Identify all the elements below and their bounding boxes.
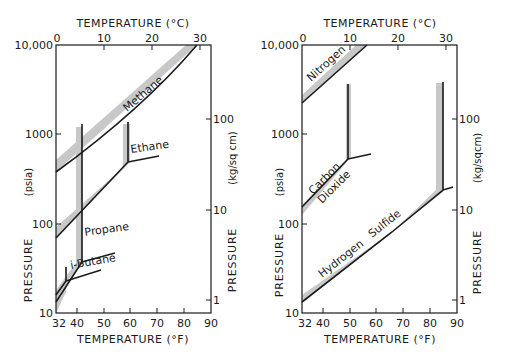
x-tick-32: 32 (298, 317, 312, 330)
left-y-ticks (56, 134, 61, 224)
x-tick-70: 70 (150, 317, 164, 330)
pressure-axis-label: PRESSURE (22, 238, 35, 302)
psia-tick-100: 100 (278, 218, 299, 231)
bottom-axis-title: TEMPERATURE (°F) (323, 333, 436, 346)
right-y2-ticks (452, 119, 457, 300)
psia-axis-label: (psia) (274, 168, 285, 196)
kg-tick-10: 10 (213, 204, 227, 217)
c-tick-10: 10 (97, 32, 111, 45)
c-tick-30: 30 (439, 32, 453, 45)
x-tick-90: 90 (204, 317, 218, 330)
kg-axis-label: (kg/sq cm) (227, 131, 238, 184)
ethane-curve (56, 122, 159, 238)
psia-tick-10000: 10,000 (261, 39, 300, 52)
top-axis-title: TEMPERATURE (°C) (322, 17, 436, 30)
kg-tick-1: 1 (213, 294, 220, 307)
x-tick-70: 70 (396, 317, 410, 330)
pressure-right-axis-label: PRESSURE (226, 228, 239, 292)
psia-axis-label: (psia) (23, 168, 34, 196)
x-tick-40: 40 (316, 317, 330, 330)
hydrate-charts: 32 40 50 60 70 80 90 0 10 20 30 10 100 1… (0, 0, 508, 360)
right-chart: 32 40 50 60 70 80 90 0 10 20 30 10 100 1… (261, 17, 485, 346)
chart-canvas: 32 40 50 60 70 80 90 0 10 20 30 10 100 1… (0, 0, 508, 360)
c-tick-0: 0 (54, 32, 61, 45)
left-bottom-ticks (77, 308, 184, 313)
psia-tick-1000: 1000 (271, 128, 299, 141)
kg-tick-100: 100 (459, 113, 480, 126)
kg-tick-10: 10 (459, 204, 473, 217)
psia-tick-100: 100 (32, 218, 53, 231)
left-shading (56, 45, 197, 313)
psia-tick-10000: 10,000 (15, 39, 54, 52)
c-tick-20: 20 (145, 32, 159, 45)
pressure-axis-label: PRESSURE (273, 233, 286, 297)
x-tick-90: 90 (450, 317, 464, 330)
bottom-axis-title: TEMPERATURE (°F) (76, 333, 189, 346)
left-axis-titles: TEMPERATURE (°C) TEMPERATURE (°F) (psia)… (22, 17, 239, 346)
kg-tick-1: 1 (459, 294, 466, 307)
left-chart: 32 40 50 60 70 80 90 0 10 20 30 10 100 1… (15, 17, 240, 346)
kg-tick-100: 100 (213, 113, 234, 126)
right-curve-labels: Nitrogen Carbon Dioxide Hydrogen Sulfide (304, 43, 403, 280)
psia-tick-10: 10 (39, 307, 53, 320)
c-tick-20: 20 (391, 32, 405, 45)
x-tick-80: 80 (177, 317, 191, 330)
x-tick-80: 80 (423, 317, 437, 330)
c-tick-30: 30 (193, 32, 207, 45)
methane-label: Methane (121, 73, 166, 114)
pressure-right-axis-label: PRESSURE (471, 230, 484, 294)
x-tick-32: 32 (52, 317, 66, 330)
sulfide-label: Sulfide (366, 207, 404, 241)
psia-tick-10: 10 (285, 307, 299, 320)
left-tick-labels: 32 40 50 60 70 80 90 0 10 20 30 10 100 1… (15, 32, 235, 330)
x-tick-40: 40 (70, 317, 84, 330)
left-y2-ticks (206, 119, 211, 300)
right-bottom-ticks (323, 308, 430, 313)
psia-tick-1000: 1000 (25, 128, 53, 141)
ethane-label: Ethane (130, 138, 170, 156)
x-tick-50: 50 (97, 317, 111, 330)
kg-axis-label: (kg/sqcm) (472, 133, 483, 183)
c-tick-10: 10 (343, 32, 357, 45)
x-tick-60: 60 (369, 317, 383, 330)
c-tick-0: 0 (300, 32, 307, 45)
right-tick-labels: 32 40 50 60 70 80 90 0 10 20 30 10 100 1… (261, 32, 481, 330)
x-tick-60: 60 (123, 317, 137, 330)
propane-label: Propane (84, 220, 131, 239)
x-tick-50: 50 (343, 317, 357, 330)
top-axis-title: TEMPERATURE (°C) (75, 17, 189, 30)
